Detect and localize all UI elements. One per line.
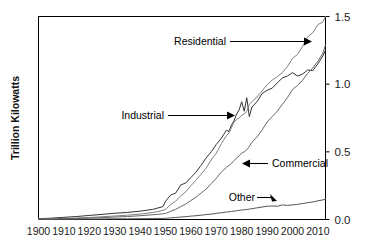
y-tick-label: 0.0 (335, 214, 351, 226)
annotation-other: Other (229, 191, 277, 203)
line-chart: Trillion Kilowatts 0.00.51.01.5 19001910… (0, 0, 371, 252)
annotation-other-arrowhead (270, 194, 277, 202)
x-tick-label: 1920 (78, 225, 102, 237)
y-axis-tick-labels: 0.00.51.01.5 (335, 11, 351, 226)
annotation-other-label: Other (229, 191, 256, 203)
y-tick-label: 1.0 (335, 78, 351, 90)
y-axis-title: Trillion Kilowatts (9, 76, 21, 160)
y-tick-label: 0.5 (335, 146, 351, 158)
x-tick-label: 2000 (281, 225, 305, 237)
x-tick-label: 1910 (52, 225, 76, 237)
x-tick-label: 1990 (255, 225, 279, 237)
annotation-industrial: Industrial (121, 109, 235, 121)
x-tick-label: 1970 (205, 225, 229, 237)
x-tick-label: 1980 (230, 225, 254, 237)
y-tick-label: 1.5 (335, 11, 351, 23)
x-axis-tick-labels: 1900191019201930194019501960197019801990… (27, 225, 330, 237)
annotation-commercial: Commercial (242, 157, 328, 169)
annotation-industrial-label: Industrial (121, 109, 164, 121)
x-tick-label: 1900 (27, 225, 51, 237)
x-tick-label: 1940 (128, 225, 152, 237)
x-tick-label: 2010 (306, 225, 330, 237)
annotation-residential-arrowhead (304, 38, 312, 46)
x-tick-label: 1950 (154, 225, 178, 237)
series-line-industrial (39, 50, 326, 218)
annotation-commercial-label: Commercial (272, 157, 328, 169)
x-tick-label: 1960 (179, 225, 203, 237)
chart-figure: Trillion Kilowatts 0.00.51.01.5 19001910… (0, 0, 371, 252)
x-tick-label: 1930 (103, 225, 127, 237)
annotation-residential: Residential (174, 35, 312, 47)
series-line-commercial (39, 45, 326, 219)
y-axis-tick-marks (326, 17, 330, 220)
annotation-commercial-arrowhead (242, 160, 250, 168)
annotation-industrial-arrowhead (227, 112, 235, 120)
annotation-residential-label: Residential (174, 35, 226, 47)
